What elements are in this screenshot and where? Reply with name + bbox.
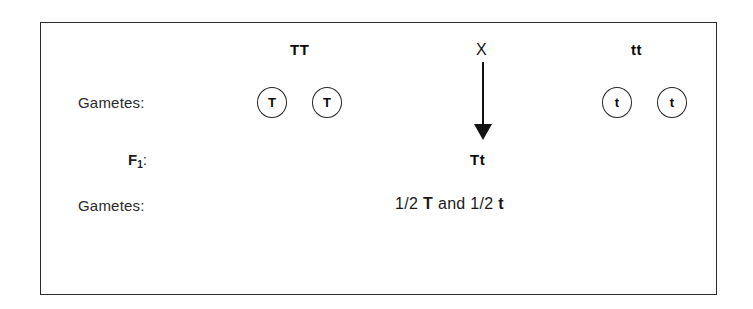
ratio-allele-1: T <box>423 195 433 212</box>
gamete-allele-label: T <box>268 96 276 109</box>
gamete-allele-label: t <box>615 96 619 109</box>
f1-letter: F <box>128 151 137 168</box>
ratio-fraction-1: 1/2 <box>395 195 418 212</box>
ratio-fraction-2: 1/2 <box>470 195 493 212</box>
f1-offspring-genotype: Tt <box>470 152 485 167</box>
cross-symbol: X <box>476 42 487 58</box>
f1-colon: : <box>143 151 147 168</box>
f1-generation-label: F1: <box>128 152 147 167</box>
f1-subscript: 1 <box>137 159 143 170</box>
cross-down-arrow-icon <box>482 62 484 140</box>
gametes-label-f1: Gametes: <box>78 198 145 213</box>
parent-right-genotype: tt <box>631 42 642 57</box>
gamete-circle-left-2: T <box>312 87 342 118</box>
diagram-canvas: TT X tt Gametes: T T t t F1: Tt Gametes:… <box>0 0 753 309</box>
ratio-allele-2: t <box>498 195 504 212</box>
gamete-allele-label: T <box>323 96 331 109</box>
f1-gamete-ratio: 1/2 T and 1/2 t <box>395 196 504 212</box>
gamete-allele-label: t <box>670 96 674 109</box>
parent-left-genotype: TT <box>290 42 309 57</box>
ratio-conjunction: and <box>438 195 466 212</box>
gametes-label-parents: Gametes: <box>78 95 145 110</box>
gamete-circle-right-2: t <box>657 87 687 118</box>
gamete-circle-right-1: t <box>602 87 632 118</box>
gamete-circle-left-1: T <box>257 87 287 118</box>
